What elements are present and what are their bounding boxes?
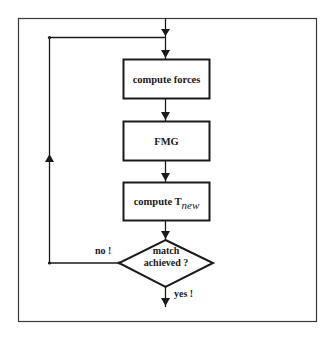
loop-up-arrowhead-icon — [45, 154, 54, 162]
fmg-text: FMG — [154, 136, 179, 147]
decision-arrowhead-icon — [161, 231, 170, 239]
compute-tnew-text: compute T — [134, 196, 182, 207]
entry-arrowhead-icon — [161, 29, 170, 36]
no-edge-label: no ! — [95, 245, 111, 256]
decision-line1: match — [130, 245, 202, 257]
compute-tnew-label: compute Tnew — [124, 183, 209, 220]
forces-arrowhead-icon — [161, 50, 170, 58]
diamond-left-dot — [118, 262, 121, 265]
compute-tnew-subscript: new — [182, 199, 200, 211]
loop-corner-dot — [48, 261, 51, 264]
compute-forces-text: compute forces — [133, 74, 201, 85]
yes-arrowhead-icon — [161, 298, 170, 306]
tnew-arrowhead-icon — [161, 173, 170, 181]
yes-edge-label: yes ! — [174, 288, 193, 299]
compute-forces-label: compute forces — [124, 60, 209, 98]
fmg-arrowhead-icon — [161, 112, 170, 120]
decision-label: match achieved ? — [130, 245, 202, 269]
flowchart-diagram — [0, 0, 333, 340]
decision-line2: achieved ? — [130, 257, 202, 269]
yes-edge-text: yes ! — [174, 288, 193, 299]
loop-top-dot — [48, 36, 51, 39]
fmg-label: FMG — [124, 122, 209, 160]
no-edge-text: no ! — [95, 245, 111, 256]
